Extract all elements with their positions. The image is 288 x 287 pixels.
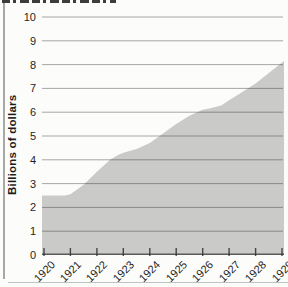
plot-area bbox=[42, 11, 284, 257]
y-axis-tick-label: 6 bbox=[6, 106, 36, 118]
y-axis-tick-label: 0 bbox=[6, 249, 36, 261]
x-axis-tick-label: 1922 bbox=[85, 259, 110, 284]
y-axis-tick-label: 4 bbox=[6, 154, 36, 166]
x-axis-tick-label: 1920 bbox=[32, 259, 57, 284]
x-axis-tick-label: 1923 bbox=[111, 259, 136, 284]
chart-figure: Billions of dollars 012345678910 1920192… bbox=[0, 0, 288, 287]
page-left-border bbox=[3, 0, 5, 279]
y-axis-tick-label: 9 bbox=[6, 35, 36, 47]
x-axis-tick-label: 1929 bbox=[270, 259, 288, 284]
y-axis-tick-label: 8 bbox=[6, 59, 36, 71]
y-axis-tick-label: 2 bbox=[6, 201, 36, 213]
x-axis-tick-label: 1928 bbox=[243, 259, 268, 284]
y-axis-tick-label: 5 bbox=[6, 130, 36, 142]
page-bottom-rule bbox=[8, 282, 288, 283]
x-axis-tick-label: 1921 bbox=[58, 259, 83, 284]
y-axis-tick-label: 1 bbox=[6, 225, 36, 237]
area-series bbox=[42, 61, 284, 255]
x-axis-tick-label: 1926 bbox=[190, 259, 215, 284]
y-axis-tick-label: 3 bbox=[6, 178, 36, 190]
clipped-text-fragment bbox=[2, 0, 116, 3]
x-axis-tick-label: 1924 bbox=[137, 259, 162, 284]
y-axis-tick-label: 7 bbox=[6, 82, 36, 94]
x-axis-tick-label: 1925 bbox=[164, 259, 189, 284]
x-axis-tick-label: 1927 bbox=[217, 259, 242, 284]
y-axis-tick-label: 10 bbox=[6, 11, 36, 23]
